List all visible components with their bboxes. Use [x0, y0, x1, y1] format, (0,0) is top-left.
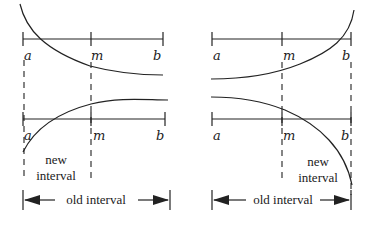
label-m: m	[93, 128, 105, 143]
old-interval-label: old interval	[253, 192, 313, 207]
label-m: m	[91, 48, 103, 63]
bottom-right-panel: a m b new interval old interval	[211, 62, 352, 210]
new-interval-line2: interval	[36, 168, 76, 183]
new-interval-line2: interval	[298, 170, 338, 185]
function-curve	[23, 99, 168, 152]
bottom-left-panel: a m b new interval old interval	[23, 60, 170, 210]
label-b: b	[341, 128, 349, 143]
arrow-left-icon	[24, 195, 40, 205]
label-m: m	[283, 48, 295, 63]
top-right-panel: a m b	[211, 10, 354, 79]
bisection-diagram: a m b a m b new interval old interval a	[0, 0, 371, 226]
label-b: b	[156, 128, 164, 143]
label-b: b	[342, 48, 350, 63]
label-b: b	[153, 48, 161, 63]
arrow-right-icon	[334, 195, 350, 205]
label-a: a	[24, 48, 32, 63]
arrow-right-icon	[153, 195, 169, 205]
old-interval-label: old interval	[66, 192, 126, 207]
arrow-left-icon	[213, 195, 229, 205]
label-m: m	[283, 128, 295, 143]
new-interval-line1: new	[307, 154, 329, 169]
label-a: a	[213, 48, 221, 63]
new-interval-line1: new	[45, 152, 67, 167]
label-a: a	[213, 128, 221, 143]
